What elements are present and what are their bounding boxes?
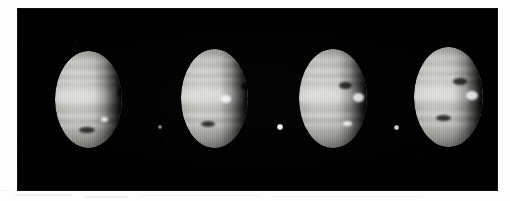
scanned-page	[0, 0, 510, 201]
scan-mark-3	[140, 195, 260, 196]
bright-knot-south-icon	[343, 121, 352, 126]
scan-mark-1	[14, 194, 72, 196]
bright-flash-icon	[221, 95, 231, 103]
jupiter-disk-2	[181, 49, 248, 148]
bright-flash-icon	[466, 91, 478, 100]
dark-belt-patch-icon	[79, 127, 95, 133]
jupiter-terminator	[181, 49, 248, 148]
scan-mark-5	[1, 190, 13, 191]
jupiter-disk-4	[414, 47, 483, 147]
moon-3	[394, 125, 399, 130]
jupiter-disk-1	[55, 51, 122, 148]
dark-belt-patch-icon	[201, 121, 215, 127]
bright-zone-knot-icon	[101, 117, 108, 122]
moon-2	[277, 124, 283, 130]
dark-spot-icon	[241, 83, 248, 90]
moon-1	[158, 125, 162, 129]
jupiter-terminator	[55, 51, 122, 148]
dark-belt-patch-icon	[436, 115, 451, 121]
dark-spot-icon	[453, 78, 467, 85]
jupiter-disk-3	[299, 49, 367, 148]
scan-mark-4	[272, 196, 422, 197]
bright-flash-icon	[353, 93, 364, 102]
scan-mark-2	[84, 196, 128, 198]
astronomical-image-plate	[18, 9, 497, 190]
dark-spot-icon	[339, 82, 352, 89]
